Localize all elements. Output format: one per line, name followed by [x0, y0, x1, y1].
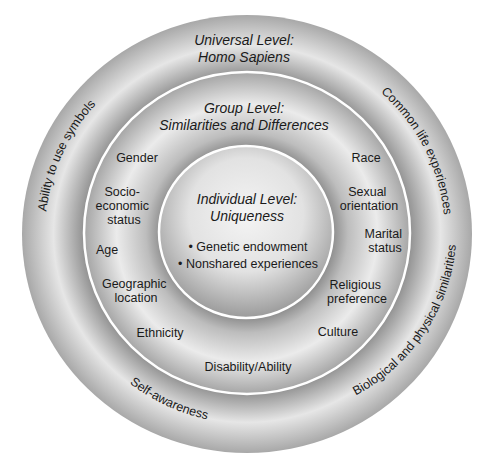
individual-bullet-nonshared-experiences: • Nonshared experiences — [178, 257, 318, 271]
individual-bullet-genetic-endowment: • Genetic endowment — [188, 240, 308, 254]
individual-level-title: Individual Level: — [197, 191, 298, 207]
group-item-age: Age — [96, 243, 118, 257]
group-item-race: Race — [351, 151, 380, 165]
group-item-marital-status: Marital status — [365, 227, 406, 255]
group-item-ethnicity: Ethnicity — [136, 326, 184, 340]
group-item-gender: Gender — [116, 151, 158, 165]
group-item-disability-ability: Disability/Ability — [205, 360, 293, 374]
individual-level-circle — [159, 146, 333, 318]
group-level-title: Group Level: — [204, 100, 284, 116]
levels-of-identity-diagram: Universal Level: Homo Sapiens Ability to… — [0, 0, 488, 466]
universal-level-title: Universal Level: — [194, 32, 294, 48]
group-item-culture: Culture — [318, 325, 358, 339]
individual-level-subtitle: Uniqueness — [210, 208, 284, 224]
universal-level-subtitle: Homo Sapiens — [198, 49, 290, 65]
group-item-religious-preference: Religious preference — [327, 278, 387, 306]
group-level-subtitle: Similarities and Differences — [159, 117, 329, 133]
group-item-sexual-orientation: Sexual orientation — [340, 185, 398, 213]
